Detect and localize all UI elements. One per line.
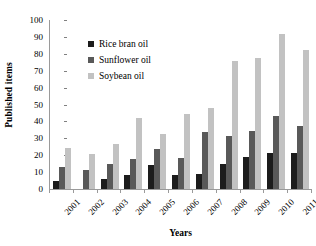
y-axis-tick-label: 20 [18, 149, 46, 161]
legend-item: Rice bran oil [88, 36, 208, 52]
x-axis-tick-label: 2010 [268, 197, 296, 225]
x-axis-tick-label: 2006 [173, 197, 201, 225]
y-axis-tick-label: 40 [18, 115, 46, 127]
x-axis-tick-label: 2004 [125, 197, 153, 225]
y-axis-tick-label: 0 [18, 183, 46, 195]
bar-group [50, 20, 74, 189]
bar [208, 108, 214, 189]
bar-group [241, 20, 265, 189]
legend-label: Sunflower oil [99, 55, 151, 65]
bar [89, 154, 95, 189]
y-axis-tick-label: 30 [18, 132, 46, 144]
bar-group [217, 20, 241, 189]
y-axis-tick-label: 80 [18, 48, 46, 60]
bar [65, 148, 71, 189]
y-axis-tick-label: 60 [18, 82, 46, 94]
x-axis-labels: 2001200220032004200520062007200820092010… [49, 193, 312, 227]
bar [184, 114, 190, 189]
legend-item: Soybean oil [88, 68, 208, 84]
chart-legend: Rice bran oilSunflower oilSoybean oil [88, 36, 208, 84]
x-axis-tick-label: 2005 [149, 197, 177, 225]
legend-swatch-icon [88, 41, 94, 47]
y-axis: 0102030405060708090100 [18, 14, 46, 194]
x-axis-tick-label: 2007 [197, 197, 225, 225]
x-axis-title: Years [49, 228, 312, 238]
bar [113, 144, 119, 189]
y-axis-tick-label: 50 [18, 99, 46, 111]
x-axis-tick-label: 2003 [101, 197, 129, 225]
x-axis-tick-label: 2002 [78, 197, 106, 225]
bar-group [264, 20, 288, 189]
y-axis-tick-label: 90 [18, 31, 46, 43]
legend-swatch-icon [88, 73, 94, 79]
y-axis-title-label: Published items [4, 62, 14, 128]
bar-chart-figure: Published items 0102030405060708090100 2… [0, 0, 316, 246]
x-axis-tick-label: 2009 [244, 197, 272, 225]
y-axis-tick-label: 10 [18, 166, 46, 178]
y-axis-tick-label: 70 [18, 65, 46, 77]
legend-label: Rice bran oil [99, 39, 148, 49]
legend-swatch-icon [88, 57, 94, 63]
y-axis-tick-label: 100 [18, 14, 46, 26]
bar [232, 61, 238, 189]
bar-group [288, 20, 312, 189]
legend-item: Sunflower oil [88, 52, 208, 68]
bar [303, 50, 309, 189]
x-axis-tick-label: 2008 [220, 197, 248, 225]
legend-label: Soybean oil [99, 71, 144, 81]
bar [136, 118, 142, 189]
bar [160, 134, 166, 189]
bar [279, 34, 285, 189]
x-axis-tick-label: 2011 [292, 197, 316, 225]
x-axis-tick-label: 2001 [54, 197, 82, 225]
y-axis-title: Published items [0, 0, 18, 190]
bar [255, 58, 261, 189]
